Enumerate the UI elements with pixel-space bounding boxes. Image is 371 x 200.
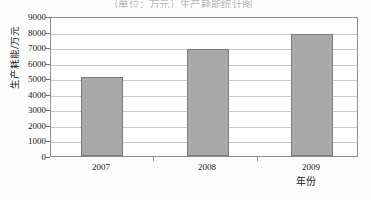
- x-tick-label-2009: 2009: [281, 162, 341, 172]
- y-tick-label-1000: 1000: [6, 137, 46, 146]
- y-tick-mark: [46, 48, 50, 49]
- y-tick-mark: [46, 95, 50, 96]
- y-tick-mark: [46, 33, 50, 34]
- x-tick-label-2008: 2008: [177, 162, 237, 172]
- y-tick-label-0: 0: [6, 153, 46, 162]
- x-tick-mark: [257, 157, 258, 161]
- y-tick-label-8000: 8000: [6, 29, 46, 38]
- bar-2008: [187, 49, 229, 156]
- y-tick-mark: [46, 17, 50, 18]
- y-tick-label-5000: 5000: [6, 75, 46, 84]
- x-tick-label-2007: 2007: [71, 162, 131, 172]
- bar-2007: [81, 77, 123, 156]
- bar-2009: [291, 34, 333, 156]
- y-tick-label-6000: 6000: [6, 60, 46, 69]
- y-tick-mark: [46, 126, 50, 127]
- y-tick-label-3000: 3000: [6, 106, 46, 115]
- x-axis-title: 年份: [276, 176, 336, 187]
- y-tick-mark: [46, 141, 50, 142]
- y-tick-label-9000: 9000: [6, 13, 46, 22]
- y-tick-mark: [46, 110, 50, 111]
- plot-area: [50, 17, 358, 157]
- y-tick-mark: [46, 79, 50, 80]
- y-tick-mark: [46, 157, 50, 158]
- bar-chart: 生产耗能/万元 9000 8000 7000 6000 5000 4000 30…: [0, 0, 371, 200]
- y-tick-label-2000: 2000: [6, 122, 46, 131]
- y-tick-label-7000: 7000: [6, 44, 46, 53]
- x-tick-mark: [153, 157, 154, 161]
- y-tick-mark: [46, 64, 50, 65]
- y-tick-label-4000: 4000: [6, 91, 46, 100]
